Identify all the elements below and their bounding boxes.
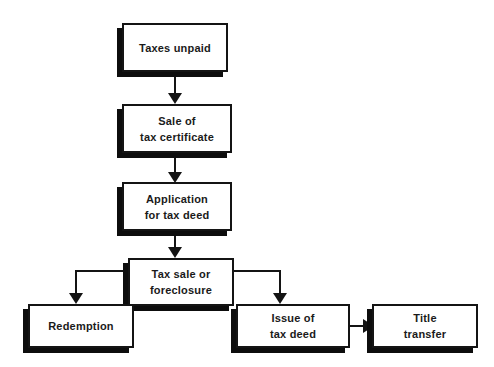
node-label-sale-of-tax-certificate: Sale of tax certificate — [140, 113, 214, 145]
arrowhead-down-icon — [273, 293, 287, 304]
node-issue-of-tax-deed[interactable]: Issue of tax deed — [236, 304, 350, 348]
node-sale-of-tax-certificate[interactable]: Sale of tax certificate — [122, 104, 232, 153]
node-label-application-for-tax-deed: Application for tax deed — [145, 191, 210, 223]
node-label-title-transfer: Title transfer — [404, 310, 447, 342]
node-tax-sale-or-foreclosure[interactable]: Tax sale or foreclosure — [128, 258, 234, 306]
connector-tax-sale-or-foreclosure-to-redemption-horizontal — [75, 270, 128, 272]
node-label-taxes-unpaid: Taxes unpaid — [139, 40, 211, 56]
node-application-for-tax-deed[interactable]: Application for tax deed — [122, 182, 232, 231]
flowchart-canvas: Taxes unpaid Sale of tax certificate App… — [0, 0, 494, 367]
arrowhead-down-icon — [69, 293, 83, 304]
arrowhead-down-icon — [168, 93, 182, 104]
node-label-issue-of-tax-deed: Issue of tax deed — [270, 310, 316, 342]
node-taxes-unpaid[interactable]: Taxes unpaid — [122, 23, 228, 72]
connector-tax-sale-or-foreclosure-to-issue-of-tax-deed-horizontal — [234, 270, 281, 272]
arrowhead-down-icon — [168, 247, 182, 258]
node-label-redemption: Redemption — [48, 318, 114, 334]
node-label-tax-sale-or-foreclosure: Tax sale or foreclosure — [150, 266, 212, 298]
node-redemption[interactable]: Redemption — [28, 304, 134, 348]
node-title-transfer[interactable]: Title transfer — [372, 304, 478, 348]
